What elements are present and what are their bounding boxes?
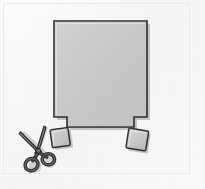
sheet-texture [54, 21, 147, 127]
cut-square-left [50, 127, 73, 150]
illustration-canvas: Cut corners from sheet with scissors Gra… [0, 0, 205, 189]
cut-corners-diagram [0, 0, 205, 189]
scissors-pivot [35, 148, 41, 154]
notched-sheet [54, 21, 150, 130]
cut-square-right [125, 128, 151, 154]
